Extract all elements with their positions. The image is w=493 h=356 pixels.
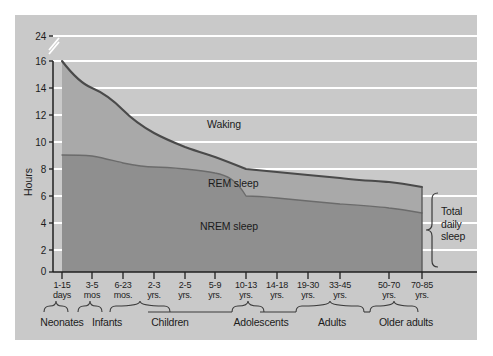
total-daily-sleep-brace: [426, 193, 438, 267]
y-tick-label-4: 4: [24, 218, 46, 229]
age-group-label-infants: Infants: [77, 316, 137, 328]
rem-sleep-region-label: REM sleep: [208, 177, 258, 189]
y-tick-label-2: 2: [24, 245, 46, 256]
age-group-label-adults: Adults: [302, 316, 362, 328]
y-tick-label-0: 0: [24, 266, 46, 277]
sleep-architecture-chart: 24 16 14 12 10 8 6 4 2 0 Hours 1-15 days…: [0, 0, 493, 356]
x-tick-marks: [62, 272, 422, 279]
x-tick-label-9: 33-45 yrs.: [319, 280, 361, 300]
age-group-label-older-adults: Older adults: [366, 316, 446, 328]
age-group-label-children: Children: [135, 316, 205, 328]
y-axis-break-icon: [49, 38, 59, 54]
total-daily-sleep-label: Total daily sleep: [441, 205, 465, 243]
y-tick-label-12: 12: [24, 110, 46, 121]
y-tick-label-14: 14: [24, 83, 46, 94]
y-tick-label-10: 10: [24, 137, 46, 148]
age-group-braces: [44, 301, 418, 312]
age-group-label-adolescents: Adolescents: [211, 316, 311, 328]
waking-region-label: Waking: [207, 118, 241, 130]
x-tick-label-11: 70-85 yrs.: [401, 280, 443, 300]
y-tick-label-24: 24: [24, 31, 46, 42]
nrem-sleep-region-label: NREM sleep: [200, 220, 258, 232]
y-tick-label-16: 16: [24, 56, 46, 67]
y-axis-title: Hours: [22, 168, 34, 196]
